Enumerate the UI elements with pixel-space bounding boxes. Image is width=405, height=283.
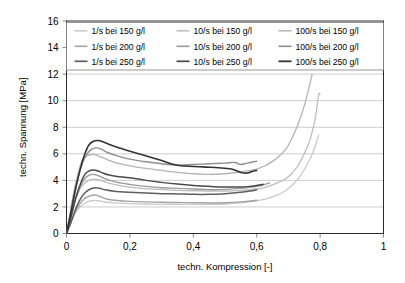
y-tick-label: 2 bbox=[53, 202, 59, 213]
legend-label: 1/s bei 150 g/l bbox=[92, 26, 146, 36]
x-tick-label: 0,2 bbox=[123, 241, 137, 252]
y-tick-label: 12 bbox=[47, 69, 59, 80]
y-tick-label: 0 bbox=[53, 228, 59, 239]
legend-label: 10/s bei 150 g/l bbox=[194, 26, 252, 36]
x-tick-label: 0 bbox=[64, 241, 70, 252]
legend-label: 10/s bei 200 g/l bbox=[194, 42, 252, 52]
stress-compression-line-chart: 0246810121416 00,20,40,60,81 techn. Span… bbox=[0, 0, 405, 283]
chart-container: 0246810121416 00,20,40,60,81 techn. Span… bbox=[0, 0, 405, 283]
legend-label: 100/s bei 150 g/l bbox=[296, 26, 359, 36]
chart-legend: 1/s bei 150 g/l10/s bei 150 g/l100/s bei… bbox=[67, 23, 384, 71]
x-tick-label: 1 bbox=[381, 241, 387, 252]
legend-label: 10/s bei 250 g/l bbox=[194, 57, 252, 67]
legend-label: 100/s bei 250 g/l bbox=[296, 57, 359, 67]
y-axis-title: techn. Spannung [MPa] bbox=[17, 78, 28, 177]
y-tick-label: 8 bbox=[53, 122, 59, 133]
y-tick-label: 14 bbox=[47, 42, 59, 53]
y-tick-label: 10 bbox=[47, 95, 59, 106]
legend-label: 1/s bei 250 g/l bbox=[92, 57, 146, 67]
y-tick-label: 16 bbox=[47, 16, 59, 27]
legend-label: 1/s bei 200 g/l bbox=[92, 42, 146, 52]
x-tick-label: 0,6 bbox=[250, 241, 264, 252]
y-tick-label: 6 bbox=[53, 148, 59, 159]
x-tick-label: 0,4 bbox=[186, 241, 200, 252]
y-tick-label: 4 bbox=[53, 175, 59, 186]
x-axis-title: techn. Kompression [-] bbox=[177, 261, 272, 272]
x-tick-label: 0,8 bbox=[313, 241, 327, 252]
legend-label: 100/s bei 200 g/l bbox=[296, 42, 359, 52]
